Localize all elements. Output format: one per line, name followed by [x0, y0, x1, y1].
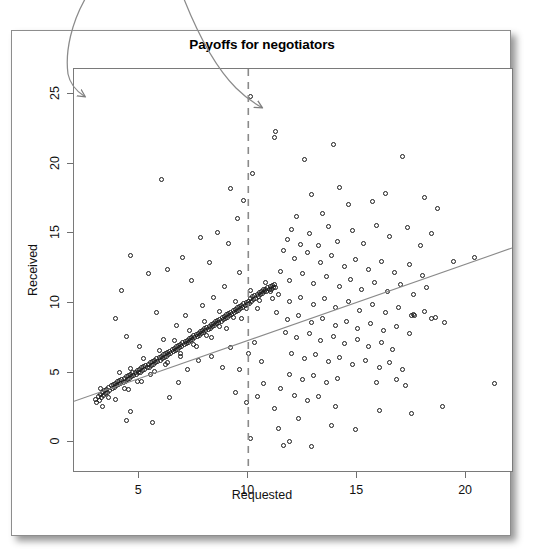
y-tick-label: 0 — [48, 438, 62, 445]
y-tick-label: 5 — [48, 368, 62, 375]
plot-area[interactable] — [73, 68, 513, 472]
y-axis-label: Received — [26, 244, 40, 296]
y-tick-label: 10 — [48, 295, 62, 309]
y-tick — [67, 441, 73, 442]
x-tick — [247, 472, 248, 478]
y-tick-label: 25 — [48, 86, 62, 100]
figure-card: Payoffs for negotiators 5101520 05101520… — [11, 30, 511, 536]
x-tick — [465, 472, 466, 478]
x-tick — [138, 472, 139, 478]
y-tick — [67, 163, 73, 164]
y-tick — [67, 372, 73, 373]
regression-line — [74, 247, 513, 401]
y-tick-label: 15 — [48, 225, 62, 239]
y-tick — [67, 232, 73, 233]
page-root: Payoffs for negotiators 5101520 05101520… — [0, 0, 536, 552]
y-tick-label: 20 — [48, 156, 62, 170]
x-tick — [356, 472, 357, 478]
y-tick — [67, 93, 73, 94]
y-tick — [67, 302, 73, 303]
x-axis-label: Requested — [12, 488, 512, 502]
plot-lines-layer — [74, 69, 513, 472]
page-title: Payoffs for negotiators — [12, 37, 512, 52]
